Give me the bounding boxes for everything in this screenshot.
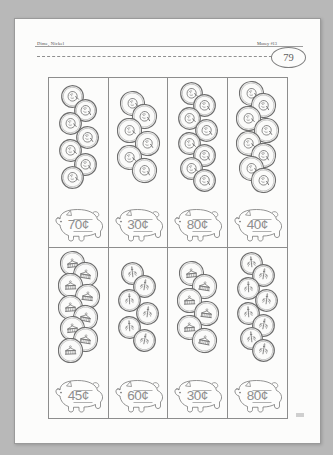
- coin-stack: [228, 248, 288, 366]
- problem-cell[interactable]: 60¢: [109, 248, 169, 418]
- problem-cell[interactable]: 40¢: [228, 78, 288, 248]
- answer-amount[interactable]: 80¢: [229, 375, 285, 415]
- piggy-bank-icon: 60¢: [110, 375, 166, 415]
- answer-amount[interactable]: 30¢: [169, 375, 225, 415]
- answer-amount[interactable]: 70¢: [50, 204, 106, 244]
- coin-stack: [109, 248, 168, 366]
- dime-coin-icon: [190, 166, 219, 195]
- piggy-bank-icon: 70¢: [50, 204, 106, 244]
- answer-amount[interactable]: 40¢: [229, 204, 285, 244]
- nickel-coin-icon: [190, 326, 219, 355]
- piggy-bank-icon: 80¢: [229, 375, 285, 415]
- dime-coin-icon: [130, 326, 159, 355]
- piggy-bank-icon: 45¢: [50, 375, 106, 415]
- answer-amount[interactable]: 60¢: [110, 375, 166, 415]
- worksheet-header: Dime, Nickel Money #13: [35, 33, 303, 47]
- nickel-coin-icon: [249, 166, 278, 195]
- header-title-left: Dime, Nickel: [37, 41, 64, 46]
- dime-coin-icon: [59, 164, 86, 191]
- header-title-right: Money #13: [257, 41, 277, 46]
- coin-stack: [49, 248, 108, 366]
- footer-mark: [296, 413, 304, 417]
- piggy-bank-icon: 30¢: [169, 375, 225, 415]
- answer-amount[interactable]: 45¢: [50, 375, 106, 415]
- coin-stack: [168, 78, 227, 196]
- problem-cell[interactable]: 80¢: [168, 78, 228, 248]
- piggy-bank-icon: 40¢: [229, 204, 285, 244]
- problem-cell[interactable]: 70¢: [49, 78, 109, 248]
- coin-stack: [228, 78, 288, 196]
- worksheet-page: Dime, Nickel Money #13 79: [14, 18, 321, 444]
- problem-cell[interactable]: 45¢: [49, 248, 109, 418]
- header-rule: [35, 46, 303, 47]
- dashed-cut-line: [37, 56, 277, 57]
- problem-grid: 70¢: [48, 77, 288, 419]
- nickel-coin-icon: [130, 156, 159, 185]
- answer-amount[interactable]: 30¢: [110, 204, 166, 244]
- answer-amount[interactable]: 80¢: [169, 204, 225, 244]
- coin-stack: [109, 78, 168, 196]
- piggy-bank-icon: 30¢: [110, 204, 166, 244]
- problem-cell[interactable]: 30¢: [168, 248, 228, 418]
- nickel-coin-icon: [57, 338, 83, 364]
- problem-cell[interactable]: 80¢: [228, 248, 288, 418]
- page-number-badge: 79: [271, 47, 306, 68]
- coin-stack: [168, 248, 227, 366]
- problem-cell[interactable]: 30¢: [109, 78, 169, 248]
- piggy-bank-icon: 80¢: [169, 204, 225, 244]
- coin-stack: [49, 78, 108, 196]
- dime-coin-icon: [249, 336, 278, 365]
